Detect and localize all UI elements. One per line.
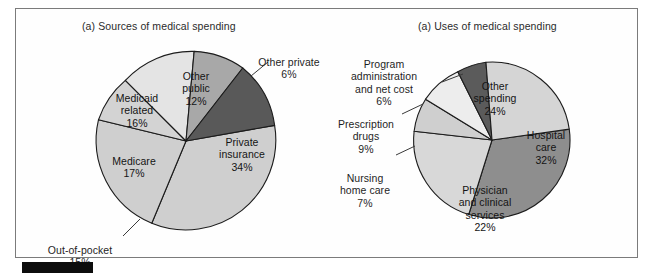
label-medicare-pct: 17%	[100, 167, 168, 179]
label-physician-clinical-services-pct: 22%	[445, 221, 525, 233]
label-prescription-drugs-text: Prescription drugs	[338, 118, 394, 142]
label-other-private-pct: 6%	[243, 68, 335, 80]
label-nursing-home-care: Nursing home care 7%	[330, 160, 400, 221]
label-medicare: Medicare 17%	[100, 143, 168, 192]
label-hospital-care-pct: 32%	[517, 154, 575, 166]
label-program-administration: Program administration and net cost 6%	[334, 46, 434, 119]
label-other-private: Other private 6%	[243, 44, 335, 93]
label-nursing-home-care-text: Nursing home care	[340, 172, 390, 196]
label-out-of-pocket-text: Out-of-pocket	[48, 244, 112, 256]
label-program-administration-pct: 6%	[334, 95, 434, 107]
label-program-administration-text: Program administration and net cost	[351, 58, 417, 94]
label-other-public-text: Other public	[182, 70, 210, 94]
label-prescription-drugs-pct: 9%	[331, 143, 401, 155]
label-physician-clinical-services-text: Physician and clinical services	[459, 184, 512, 220]
label-other-spending-text: Other spending	[473, 80, 516, 104]
label-other-public-pct: 12%	[168, 95, 224, 107]
label-private-insurance-text: Private insurance	[219, 136, 265, 160]
label-other-private-text: Other private	[258, 56, 319, 68]
label-medicare-text: Medicare	[112, 155, 156, 167]
label-medicaid-related-text: Medicaid related	[116, 92, 158, 116]
leader-line-out-of-pocket	[123, 219, 140, 236]
label-other-spending-pct: 24%	[462, 105, 528, 117]
label-private-insurance-pct: 34%	[206, 161, 278, 173]
label-other-public: Other public 12%	[168, 58, 224, 119]
label-nursing-home-care-pct: 7%	[330, 197, 400, 209]
label-private-insurance: Private insurance 34%	[206, 124, 278, 185]
label-medicaid-related: Medicaid related 16%	[103, 80, 171, 141]
label-physician-clinical-services: Physician and clinical services 22%	[445, 172, 525, 245]
figure-root: (a) Sources of medical spending (a) Uses…	[0, 0, 659, 274]
figure-marker-bar	[22, 262, 93, 273]
label-medicaid-related-pct: 16%	[103, 117, 171, 129]
label-hospital-care-text: Hospital care	[527, 129, 565, 153]
label-other-spending: Other spending 24%	[462, 68, 528, 129]
